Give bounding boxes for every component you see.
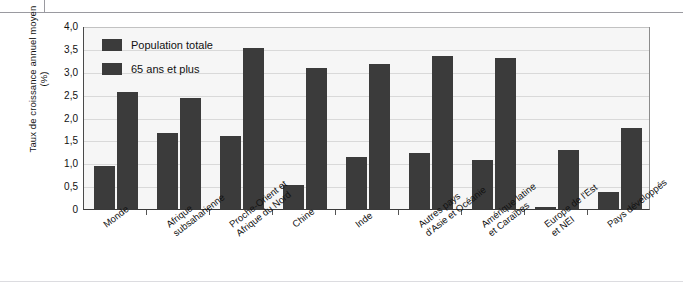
bar [432,56,453,209]
bar [117,92,138,209]
bar [306,68,327,209]
y-axis-tick-label: 0 [72,205,78,215]
growth-rate-bar-chart: Taux de croissance annuel moyen (%) 4,03… [0,13,683,281]
legend-item-65-ans-et-plus[interactable]: 65 ans et plus [102,59,292,79]
bar [94,166,115,209]
y-axis-tick-label: 1,0 [64,159,78,169]
y-axis-tick-label: 3,5 [64,45,78,55]
y-axis-tick-label: 3,0 [64,68,78,78]
y-axis-title: Taux de croissance annuel moyen (%) [27,0,49,159]
y-axis-tick-labels: 4,03,53,02,52,01,51,00,50 [48,13,78,211]
y-axis-tick-label: 0,5 [64,182,78,192]
x-axis-category-labels: MondeAfriquesubsaharienneProche-Orient e… [83,215,683,285]
legend-item-population-totale[interactable]: Population totale [102,35,292,55]
bar [369,64,390,209]
bar [157,133,178,209]
y-axis-tick-label: 1,5 [64,136,78,146]
plot-area: Population totale 65 ans et plus [83,27,650,210]
bar [409,153,430,209]
bar [495,58,516,209]
bar [180,98,201,209]
legend-swatch-icon [102,63,122,75]
y-axis-tick-label: 2,0 [64,114,78,124]
y-axis-tick-label: 2,5 [64,91,78,101]
legend-swatch-icon [102,39,122,51]
legend-item-label: Population totale [131,39,213,51]
bar [346,157,367,209]
legend-item-label: 65 ans et plus [131,63,200,75]
chart-legend: Population totale 65 ans et plus [102,35,292,83]
bar [535,207,556,209]
y-axis-tick-label: 4,0 [64,22,78,32]
